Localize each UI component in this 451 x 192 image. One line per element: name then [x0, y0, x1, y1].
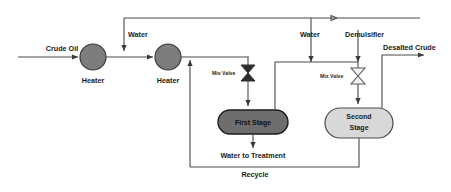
water-1-label: Water [128, 30, 148, 39]
pfd-canvas: Crude Oil Heater Heater Water Water Demu… [0, 0, 451, 192]
second-stage-label-line2: Stage [349, 124, 368, 132]
mix-valve-1-upper-triangle [241, 65, 255, 73]
desalted-crude-outlet-line [382, 55, 424, 108]
mix-valve-1-label: Mix Valve [212, 70, 235, 76]
first-stage-label: First Stage [235, 119, 271, 127]
heater-1-symbol [80, 44, 106, 70]
crude-oil-label: Crude Oil [46, 44, 78, 53]
water-2-label: Water [300, 30, 320, 39]
mix-valve-2-lower-triangle [351, 76, 365, 84]
mix-valve-1-lower-triangle [241, 73, 255, 81]
water-to-treatment-label: Water to Treatment [221, 151, 286, 160]
mix-valve-2-upper-triangle [351, 68, 365, 76]
process-flow-diagram: Crude Oil Heater Heater Water Water Demu… [0, 0, 451, 192]
mix-valve-2-label: Mix Valve [320, 73, 343, 79]
firststage-to-secondstage-riser [275, 62, 311, 110]
demulsifier-label: Demulsifier [345, 30, 384, 39]
second-stage-label-line1: Second [346, 113, 371, 120]
heater-2-label: Heater [157, 76, 180, 85]
desalted-crude-label: Desalted Crude [383, 43, 436, 52]
recycle-label: Recycle [241, 170, 268, 179]
heater-1-label: Heater [82, 76, 105, 85]
heater-2-symbol [155, 44, 181, 70]
